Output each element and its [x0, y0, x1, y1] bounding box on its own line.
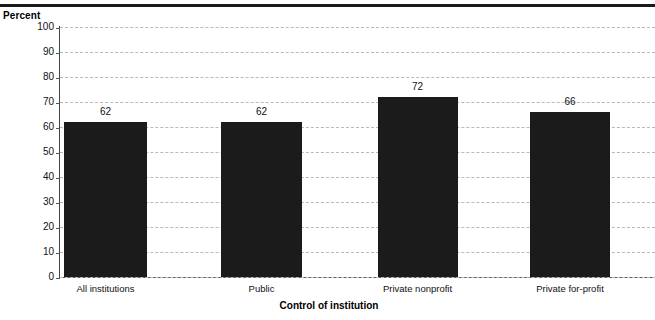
y-tick-label-100: 100 [28, 22, 54, 32]
y-tick-label-60: 60 [28, 122, 54, 132]
y-tick-10 [56, 253, 60, 254]
y-tick-label-30: 30 [28, 197, 54, 207]
bar-value-label-3: 72 [358, 82, 478, 92]
y-tick-label-10: 10 [28, 247, 54, 257]
plot-area: 62627266 [60, 27, 655, 277]
x-axis-title: Control of institution [0, 300, 655, 311]
bar-4[interactable] [530, 112, 610, 277]
y-tick-100 [56, 28, 60, 29]
gridline-100 [60, 27, 655, 28]
gridline-90 [60, 52, 655, 53]
y-tick-0 [56, 278, 60, 279]
y-tick-label-90: 90 [28, 47, 54, 57]
y-tick-80 [56, 78, 60, 79]
bar-2[interactable] [221, 122, 302, 277]
gridline-0 [60, 277, 655, 278]
y-axis-tick-labels: 0102030405060708090100 [26, 27, 54, 277]
bar-3[interactable] [378, 97, 458, 277]
y-tick-30 [56, 203, 60, 204]
bar-value-label-4: 66 [510, 97, 630, 107]
y-tick-40 [56, 178, 60, 179]
y-tick-60 [56, 128, 60, 129]
x-tick-label-1: All institutions [26, 283, 186, 294]
bar-value-label-2: 62 [201, 107, 322, 117]
x-tick-label-4: Private for-profit [490, 283, 650, 294]
y-tick-label-20: 20 [28, 222, 54, 232]
y-tick-label-50: 50 [28, 147, 54, 157]
x-tick-label-3: Private nonprofit [338, 283, 498, 294]
x-tick-label-2: Public [182, 283, 342, 294]
y-tick-70 [56, 103, 60, 104]
y-tick-label-80: 80 [28, 72, 54, 82]
top-rule [0, 4, 655, 7]
x-axis-title-text: Control of institution [280, 300, 379, 311]
y-tick-label-0: 0 [28, 272, 54, 282]
y-tick-label-70: 70 [28, 97, 54, 107]
y-tick-20 [56, 228, 60, 229]
bar-1[interactable] [64, 122, 147, 277]
gridline-80 [60, 77, 655, 78]
y-tick-label-40: 40 [28, 172, 54, 182]
y-axis-title: Percent [3, 10, 40, 21]
y-tick-50 [56, 153, 60, 154]
y-tick-90 [56, 53, 60, 54]
bar-value-label-1: 62 [44, 107, 167, 117]
